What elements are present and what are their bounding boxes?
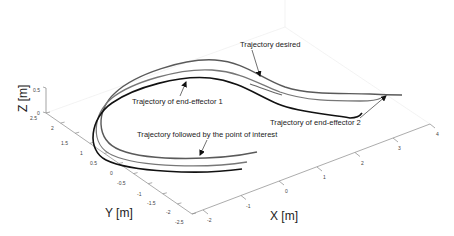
svg-text:0: 0 [110,170,113,176]
trajectory-desired-line [101,60,402,159]
svg-text:-2.5: -2.5 [175,219,184,225]
svg-text:1: 1 [323,174,326,180]
svg-text:-1: -1 [137,191,142,197]
svg-text:Trajectory of end-effector 2: Trajectory of end-effector 2 [270,118,361,127]
svg-text:4: 4 [436,131,439,137]
trajectory-3d-chart: 0.5 0 Z [m] 2.5 2 1.5 1 0.5 0 -0.5 -1 -1… [0,0,454,236]
svg-text:1: 1 [80,150,83,156]
z-axis [43,87,46,113]
x-axis-label: X [m] [270,209,298,223]
svg-text:-1.5: -1.5 [147,200,156,206]
svg-text:Trajectory of end-effector 1: Trajectory of end-effector 1 [132,97,223,106]
back-box-edges [46,0,430,124]
svg-text:1.5: 1.5 [61,140,68,146]
svg-text:Trajectory followed by the poi: Trajectory followed by the point of inte… [137,130,278,139]
x-tick-labels: -2 -1 0 1 2 3 4 [207,131,439,223]
annotation-ee1: Trajectory of end-effector 1 [132,82,223,106]
svg-text:Trajectory desired: Trajectory desired [240,40,301,49]
z-axis-label: Z [m] [16,85,30,112]
svg-text:2.5: 2.5 [30,115,37,121]
z-tick-label: 0.5 [33,87,40,93]
svg-text:2: 2 [361,160,364,166]
y-axis [46,112,196,214]
svg-text:-2: -2 [207,217,212,223]
annotation-poi: Trajectory followed by the point of inte… [137,130,278,155]
svg-text:0.5: 0.5 [90,160,97,166]
svg-text:-1: -1 [246,203,251,209]
annotation-desired: Trajectory desired [240,40,301,76]
svg-text:-2: -2 [166,209,171,215]
svg-text:-0.5: -0.5 [117,180,126,186]
svg-text:2: 2 [51,125,54,131]
svg-text:3: 3 [398,145,401,151]
z-tick-label: 0 [37,110,40,116]
y-axis-label: Y [m] [105,206,133,220]
svg-text:0: 0 [285,188,288,194]
